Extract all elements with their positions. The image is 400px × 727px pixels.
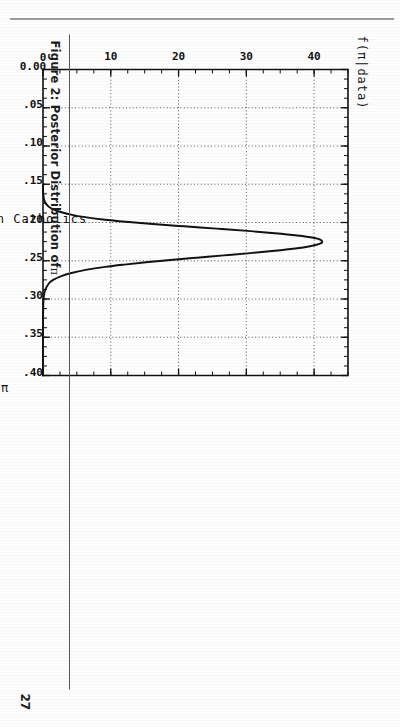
y-tick-label: 20 — [172, 50, 185, 63]
figure-caption-text: Figure 2: Posterior Distribution of — [48, 40, 62, 267]
y-axis-tick-labels: 010203040 — [40, 50, 321, 63]
caption-block: Figure 2: Posterior Distribution ofπ — [34, 0, 70, 727]
page-number: 27 — [18, 693, 32, 710]
y-tick-label: 30 — [240, 50, 253, 63]
x-axis-symbol-pi: π — [1, 380, 9, 394]
plot-area: 0.00.05.10.15.20.25.30.35.40 010203040 P… — [43, 69, 348, 375]
gridlines — [43, 69, 348, 375]
y-tick-label: 10 — [104, 50, 117, 63]
figure-caption: Figure 2: Posterior Distribution ofπ — [48, 40, 62, 275]
scanned-page: 0.00.05.10.15.20.25.30.35.40 010203040 P… — [0, 0, 400, 727]
figure: 0.00.05.10.15.20.25.30.35.40 010203040 P… — [0, 0, 400, 727]
figure-caption-pi: π — [48, 267, 61, 274]
posterior-distribution-chart: 0.00.05.10.15.20.25.30.35.40 010203040 P… — [43, 69, 348, 375]
y-tick-label: 40 — [307, 50, 320, 63]
y-axis-label: f(π|data) — [355, 35, 369, 109]
caption-divider — [69, 34, 70, 689]
rotated-figure-container: 0.00.05.10.15.20.25.30.35.40 010203040 P… — [0, 0, 400, 727]
